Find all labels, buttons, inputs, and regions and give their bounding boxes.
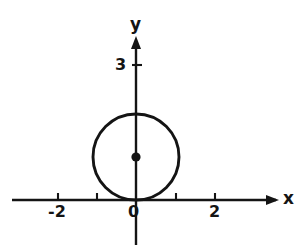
origin-label: 0 (128, 204, 139, 220)
coordinate-plane-graphic (0, 0, 300, 252)
circle-center-point (131, 152, 140, 161)
y-tick-label-3: 3 (115, 57, 126, 73)
x-tick-label-2: 2 (209, 204, 220, 220)
x-tick-label-negative-2: -2 (48, 204, 66, 220)
y-axis-arrow-icon (131, 36, 141, 49)
y-axis-label: y (130, 16, 141, 33)
x-axis-label: x (283, 190, 294, 207)
figure-canvas: y x 3 -2 0 2 (0, 0, 300, 252)
x-axis-arrow-icon (266, 195, 279, 205)
